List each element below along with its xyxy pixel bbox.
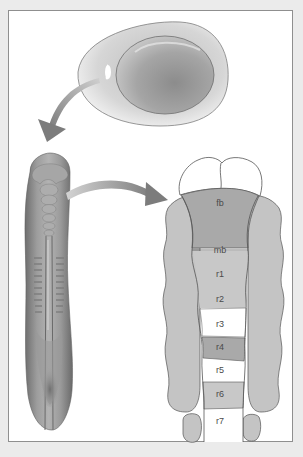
embryo-illustration — [25, 153, 73, 430]
egg-yolk — [116, 36, 214, 114]
egg-illustration — [78, 22, 228, 126]
embryo-brain-diagram: fb mb r1 r2 r3 r4 r5 r6 r7 — [0, 0, 303, 457]
label-r5: r5 — [216, 365, 224, 375]
right-lateral-tissue — [248, 196, 284, 412]
left-lower-tissue — [183, 414, 201, 443]
label-r2: r2 — [216, 294, 224, 304]
arrow-embryo-to-brain-icon — [66, 180, 168, 206]
label-r4: r4 — [216, 342, 224, 352]
label-r3: r3 — [216, 319, 224, 329]
right-lower-tissue — [243, 414, 261, 441]
label-r6: r6 — [216, 389, 224, 399]
label-fb: fb — [216, 198, 224, 208]
label-r1: r1 — [216, 269, 224, 279]
label-mb: mb — [214, 245, 227, 255]
embryo-disc-highlight — [105, 65, 111, 79]
label-r7: r7 — [216, 416, 224, 426]
